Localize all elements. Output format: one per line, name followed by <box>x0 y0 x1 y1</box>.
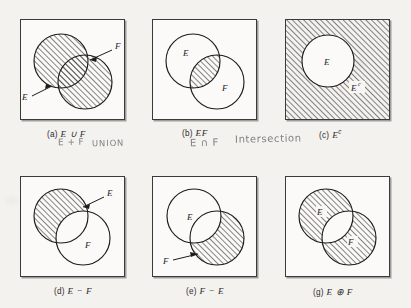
scan-smudge <box>6 196 18 205</box>
panel-e-caption-expr: F − E <box>200 286 225 296</box>
panel-a: F E <box>20 19 125 120</box>
panel-b-label-f: F <box>221 83 228 93</box>
panel-d-caption-label: (d) <box>54 287 65 296</box>
panel-d-label-e: E <box>106 188 113 198</box>
panel-a-label-f: F <box>114 41 121 51</box>
panel-c: E E c <box>285 19 390 120</box>
panel-b-annotation-word: Intersection <box>235 132 302 144</box>
panel-e-caption: (e)F − E <box>186 286 224 296</box>
panel-e-label-f: F <box>162 256 169 266</box>
panel-c-label-e: E <box>323 57 330 67</box>
panel-d: E F <box>20 176 125 277</box>
panel-e-caption-label: (e) <box>186 287 197 296</box>
panel-a-arrow-e <box>32 84 52 96</box>
panel-d-caption-expr: E − F <box>68 286 93 296</box>
panel-a-annotation-word: UNION <box>92 138 124 149</box>
panel-e: E F <box>152 176 257 277</box>
panel-e-label-e: E <box>186 212 193 222</box>
panel-c-caption: (c)Ec <box>319 128 342 140</box>
panel-g: E F <box>285 176 390 277</box>
panel-g-label-e: E <box>316 207 323 217</box>
panel-g-label-f: F <box>347 237 354 247</box>
panel-c-label-ec-sup: c <box>358 81 361 87</box>
panel-d-diagram: E F <box>20 176 125 277</box>
panel-e-diagram: E F <box>152 176 257 277</box>
panel-c-label-ec: E <box>350 83 357 93</box>
panel-a-caption-label: (a) <box>47 130 58 139</box>
panel-a-annotation-formula: E + F <box>58 137 84 148</box>
panel-g-caption-expr: E ⊕ F <box>327 287 353 297</box>
panel-c-caption-label: (c) <box>319 131 329 140</box>
panel-c-label-ec-group: E c <box>349 81 365 93</box>
panel-b-label-e: E <box>182 48 189 58</box>
panel-a-diagram: F E <box>20 19 125 120</box>
panel-g-caption-label: (g) <box>313 288 324 297</box>
panel-b-annotation-formula: E ∩ F <box>190 137 219 149</box>
panel-g-caption: (g)E ⊕ F <box>313 286 353 297</box>
panel-g-diagram: E F <box>285 176 390 277</box>
panel-g-label-f-group: F <box>347 236 358 247</box>
panel-d-label-f: F <box>84 240 91 250</box>
panel-a-label-e: E <box>21 92 28 102</box>
panel-c-diagram: E E c <box>285 19 390 120</box>
panel-g-label-e-group: E <box>316 206 327 217</box>
panel-c-caption-sup: c <box>338 128 341 135</box>
panel-b-diagram: E F <box>152 19 257 120</box>
panel-b: E F <box>152 19 257 120</box>
panel-a-circle-f <box>58 55 112 109</box>
venn-diagram-figure: F E (a)E ∪ F E + F UNION E F (b)EF E ∩ F… <box>0 0 411 308</box>
panel-d-caption: (d)E − F <box>54 286 92 296</box>
